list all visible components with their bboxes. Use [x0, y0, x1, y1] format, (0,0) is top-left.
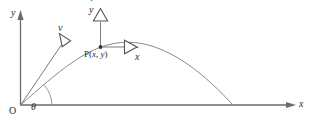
x-axis: [20, 102, 296, 108]
projectile-diagram: y x O θ v y x P(x, y): [0, 0, 313, 126]
horizontal-velocity-label: x: [135, 52, 139, 62]
velocity-vector-label: v: [58, 23, 62, 33]
y-axis-label: y: [11, 8, 15, 18]
vertical-velocity-label: y: [89, 5, 93, 15]
vertical-velocity-label-text: y: [89, 5, 93, 15]
vertical-velocity-vector: [93, 9, 107, 48]
origin-label: O: [9, 106, 16, 116]
launch-angle-arc: [44, 85, 52, 105]
point-p-suffix: ): [105, 49, 108, 59]
x-axis-label: x: [299, 99, 303, 109]
launch-angle-label: θ: [31, 102, 36, 112]
point-p-label: P(x, y): [84, 50, 108, 59]
horizontal-velocity-label-text: x: [135, 52, 139, 62]
point-p-prefix: P(: [84, 49, 92, 59]
y-axis: [17, 10, 23, 105]
diagram-canvas: [0, 0, 313, 126]
